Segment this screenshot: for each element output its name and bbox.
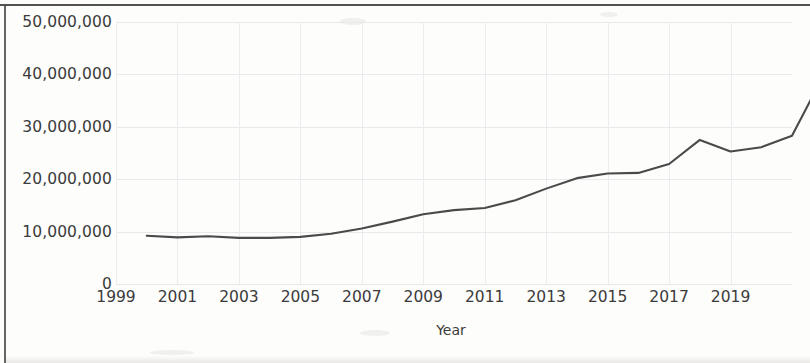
y-axis-tick-label: 10,000,000 (22, 224, 112, 240)
x-axis-tick-label: 2011 (465, 289, 504, 305)
x-axis-tick-label: 2009 (404, 289, 443, 305)
x-axis-tick-labels: 1999200120032005200720092011201320152017… (0, 289, 810, 309)
page-bottom-shadow (6, 356, 810, 363)
x-axis-title: Year (0, 322, 810, 338)
x-axis-title-text: Year (436, 322, 466, 338)
x-axis-tick-label: 2007 (342, 289, 381, 305)
x-axis-tick-label: 1999 (96, 289, 135, 305)
y-axis-tick-label: 40,000,000 (22, 66, 112, 82)
scanned-page-background: 010,000,00020,000,00030,000,00040,000,00… (0, 0, 810, 363)
gridline-horizontal (116, 284, 792, 285)
plot-area (116, 22, 792, 284)
x-axis-tick-label: 2015 (588, 289, 627, 305)
x-axis-tick-label: 2019 (711, 289, 750, 305)
x-axis-tick-label: 2003 (219, 289, 258, 305)
chart-figure: 010,000,00020,000,00030,000,00040,000,00… (0, 0, 810, 363)
x-axis-tick-label: 2005 (281, 289, 320, 305)
x-axis-tick-label: 2013 (526, 289, 565, 305)
data-line-series (116, 22, 792, 284)
y-axis-tick-label: 30,000,000 (22, 119, 112, 135)
x-axis-tick-label: 2017 (649, 289, 688, 305)
x-axis-tick-label: 2001 (158, 289, 197, 305)
y-axis-tick-label: 20,000,000 (22, 171, 112, 187)
y-axis-tick-label: 50,000,000 (22, 14, 112, 30)
